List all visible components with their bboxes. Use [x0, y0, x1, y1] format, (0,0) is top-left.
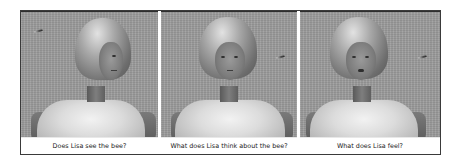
- panel-3: What does Lisa feel?: [300, 11, 440, 154]
- left-eye: [352, 56, 356, 58]
- bee-icon: [418, 55, 427, 59]
- panel-2-scene: [161, 11, 297, 138]
- panel-2-caption: What does Lisa think about the bee?: [161, 137, 297, 154]
- left-eye: [221, 56, 225, 58]
- neck: [220, 86, 238, 102]
- right-eye: [234, 56, 238, 58]
- mouth: [227, 70, 233, 71]
- mouth-open: [358, 69, 364, 72]
- panel-1-scene: [21, 11, 158, 138]
- bee-icon: [276, 55, 285, 59]
- eye: [112, 55, 116, 57]
- panel-2: What does Lisa think about the bee?: [161, 11, 297, 154]
- panel-3-scene: [300, 11, 440, 138]
- figure-frame: Does Lisa see the bee? What does Lisa th…: [20, 10, 441, 155]
- panel-1-caption: Does Lisa see the bee?: [21, 137, 158, 154]
- face: [215, 42, 245, 80]
- neck: [87, 86, 105, 102]
- right-eye: [365, 56, 369, 58]
- panel-1: Does Lisa see the bee?: [21, 11, 158, 154]
- neck: [353, 86, 371, 102]
- face: [99, 42, 123, 80]
- mouth: [111, 70, 117, 71]
- face: [346, 42, 376, 80]
- bee-icon: [34, 29, 43, 33]
- panel-3-caption: What does Lisa feel?: [300, 137, 440, 154]
